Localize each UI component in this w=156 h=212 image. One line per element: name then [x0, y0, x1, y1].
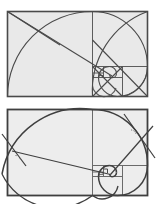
figure-golden-rectangle-fibonacci-spiral	[0, 0, 156, 100]
figure-two-canvas	[0, 100, 156, 204]
figure-golden-spiral-tangent-construction	[0, 100, 156, 204]
diagram-page	[0, 0, 156, 212]
figure-one-canvas	[0, 0, 156, 100]
caption-strip	[0, 200, 156, 212]
figure-two-panel-fill	[8, 110, 148, 196]
